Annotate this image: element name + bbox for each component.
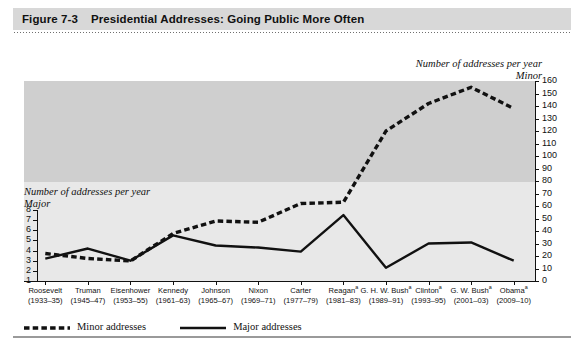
right-axis-tick-label: 50 — [542, 213, 552, 223]
right-axis-tick-label: 110 — [542, 138, 556, 148]
left-axis-caption-line1: Number of addresses per year — [24, 186, 150, 197]
left-axis-tick-label: 4 — [24, 245, 31, 255]
chart-legend: Minor addressesMajor addresses — [24, 318, 336, 334]
right-axis-tick — [535, 131, 539, 132]
left-axis-tick — [33, 230, 37, 231]
left-axis-tick-label: 2 — [24, 265, 31, 275]
left-axis-tick — [33, 210, 37, 211]
right-axis-tick-label: 40 — [542, 225, 552, 235]
x-axis-category-label: Roosevelt(1933–35) — [28, 286, 63, 305]
right-axis-tick-label: 160 — [542, 75, 557, 85]
figure-title: Presidential Addresses: Going Public Mor… — [91, 13, 364, 25]
right-axis-tick-label: 0 — [542, 275, 547, 285]
x-axis-year-range: (1965–67) — [198, 296, 233, 305]
x-axis-tick — [88, 281, 89, 285]
x-axis-tick — [301, 281, 302, 285]
x-axis-category-label: Carter(1977–79) — [283, 286, 318, 305]
footnote-marker: a — [525, 284, 528, 290]
right-axis-tick — [535, 281, 539, 282]
right-axis-tick — [535, 269, 539, 270]
x-axis-year-range: (1953–55) — [113, 296, 148, 305]
left-axis-tick — [33, 240, 37, 241]
right-axis-tick — [535, 106, 539, 107]
plot-area — [24, 81, 535, 281]
x-axis-tick — [130, 281, 131, 285]
right-axis-tick — [535, 144, 539, 145]
x-axis-tick — [216, 281, 217, 285]
x-axis-year-range: (1933–35) — [28, 296, 63, 305]
right-axis-tick-label: 70 — [542, 188, 552, 198]
header-dotted-rule — [13, 31, 571, 34]
left-axis-tick-label: 1 — [24, 275, 31, 285]
right-axis-tick-label: 80 — [542, 175, 552, 185]
x-axis-tick — [429, 281, 430, 285]
left-axis-tick-label: 6 — [24, 224, 31, 234]
right-axis-tick-label: 100 — [542, 150, 557, 160]
x-axis-tick — [471, 281, 472, 285]
x-axis-category-label: Reagana(1981–83) — [326, 286, 361, 305]
x-axis-tick — [45, 281, 46, 285]
left-value-axis: 12345678 — [24, 210, 38, 282]
figure-container: Figure 7-3 Presidential Addresses: Going… — [0, 0, 583, 342]
left-axis-tick — [33, 261, 37, 262]
left-axis-tick — [33, 251, 37, 252]
x-axis-category-label: Nixon(1969–71) — [241, 286, 276, 305]
x-axis-line — [24, 281, 535, 282]
x-axis-year-range: (1989–91) — [369, 296, 404, 305]
right-axis-tick-label: 30 — [542, 238, 552, 248]
footnote-marker: a — [489, 284, 492, 290]
right-axis-tick-label: 120 — [542, 125, 557, 135]
right-axis-tick-label: 140 — [542, 100, 557, 110]
x-axis-tick — [173, 281, 174, 285]
x-axis-year-range: (1945–47) — [71, 296, 106, 305]
figure-number: Figure 7-3 — [22, 13, 78, 25]
figure-bottom-rule — [13, 336, 571, 338]
left-axis-tick-label: 5 — [24, 234, 31, 244]
x-axis-year-range: (1961–63) — [156, 296, 191, 305]
x-axis-year-range: (2001–03) — [454, 296, 489, 305]
left-axis-tick-label: 7 — [24, 214, 31, 224]
x-axis-category-label: G. W. Busha(2001–03) — [450, 286, 491, 305]
x-axis-year-range: (1977–79) — [283, 296, 318, 305]
right-axis-tick — [535, 169, 539, 170]
legend-label: Minor addresses — [77, 321, 146, 332]
right-axis-tick — [535, 231, 539, 232]
x-axis-category-label: G. H. W. Busha(1989–91) — [360, 286, 411, 305]
x-axis-category-label: Truman(1945–47) — [71, 286, 106, 305]
footnote-marker: a — [439, 284, 442, 290]
right-value-axis: 0102030405060708090100110120130140150160 — [535, 81, 547, 281]
left-axis-tick — [33, 220, 37, 221]
right-axis-tick-label: 20 — [542, 250, 552, 260]
x-axis-year-range: (1993–95) — [411, 296, 446, 305]
right-axis-caption-line2: Minor — [516, 70, 542, 81]
x-axis-tick — [514, 281, 515, 285]
right-axis-tick-label: 10 — [542, 263, 552, 273]
right-axis-tick — [535, 81, 539, 82]
x-axis-category-label: Johnson(1965–67) — [198, 286, 233, 305]
right-axis-tick — [535, 181, 539, 182]
left-axis-tick-label: 3 — [24, 255, 31, 265]
figure-header: Figure 7-3 Presidential Addresses: Going… — [13, 8, 571, 30]
series-line — [45, 87, 513, 261]
legend-key-swatch — [180, 320, 226, 332]
x-axis-year-range: (1981–83) — [326, 296, 361, 305]
x-axis-category-label: Eisenhower(1953–55) — [111, 286, 151, 305]
legend-label: Major addresses — [233, 321, 302, 332]
right-axis-tick-label: 130 — [542, 113, 557, 123]
x-axis-tick — [343, 281, 344, 285]
x-axis-category-label: Clintona(1993–95) — [411, 286, 446, 305]
right-axis-tick-label: 60 — [542, 200, 552, 210]
x-axis-year-range: (2009–10) — [496, 296, 531, 305]
legend-item: Minor addresses — [24, 320, 146, 332]
x-axis-category-label: Obamaa(2009–10) — [496, 286, 531, 305]
legend-key-swatch — [24, 320, 70, 332]
right-axis-tick — [535, 194, 539, 195]
right-axis-tick — [535, 256, 539, 257]
right-axis-tick — [535, 94, 539, 95]
x-axis-category-label: Kennedy(1961–63) — [156, 286, 191, 305]
x-axis-tick — [258, 281, 259, 285]
legend-item: Major addresses — [180, 320, 302, 332]
series-lines — [24, 81, 535, 281]
right-axis-tick — [535, 219, 539, 220]
left-axis-tick — [33, 271, 37, 272]
